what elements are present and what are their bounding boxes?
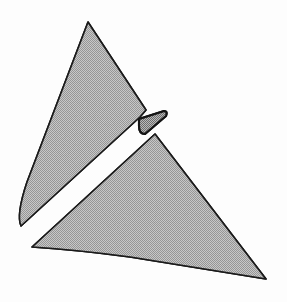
figure-canvas [0,0,287,302]
figure-container [0,0,287,302]
